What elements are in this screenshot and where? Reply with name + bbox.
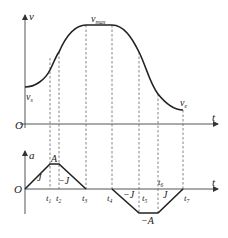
- time-label-t2: t2: [56, 193, 62, 204]
- ve-label: ve: [180, 97, 187, 109]
- accel-y-label: a: [29, 149, 35, 161]
- velocity-origin-label: O: [15, 119, 23, 131]
- jerk-label-1: J: [37, 172, 42, 183]
- peak-accel-label: A: [50, 153, 58, 164]
- time-label-t6: t6: [158, 177, 164, 188]
- s-curve-motion-diagram: v t O vmax vs ve a t O A −A J −J −J J t1…: [0, 0, 228, 238]
- time-label-t7: t7: [184, 193, 190, 204]
- accel-x-label: t: [212, 176, 216, 188]
- jerk-label-4: J: [163, 189, 168, 200]
- accel-positive-trapezoid: [25, 164, 86, 189]
- jerk-label-3: −J: [123, 189, 135, 200]
- velocity-x-label: t: [212, 111, 216, 123]
- jerk-label-2: −J: [58, 175, 70, 186]
- time-label-t4: t4: [107, 193, 113, 204]
- vs-label: vs: [26, 91, 33, 103]
- velocity-curve: [25, 25, 183, 110]
- vmax-label: vmax: [91, 13, 106, 25]
- time-label-t5: t5: [142, 193, 148, 204]
- velocity-y-label: v: [29, 10, 34, 22]
- time-label-t3: t3: [82, 193, 88, 204]
- time-label-t1: t1: [46, 193, 52, 204]
- neg-peak-accel-label: −A: [141, 215, 155, 226]
- accel-origin-label: O: [14, 183, 22, 195]
